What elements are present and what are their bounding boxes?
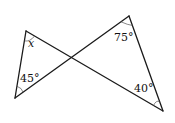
geometry-diagram: x 45° 75° 40° (0, 0, 175, 123)
angle-arc-B (17, 86, 23, 92)
segment-BC (15, 16, 129, 98)
angle-label-40: 40° (134, 82, 154, 95)
segment-CD (129, 16, 163, 111)
angle-label-75: 75° (114, 31, 134, 44)
angle-label-45: 45° (20, 72, 40, 85)
segment-AD (26, 31, 163, 111)
angle-arc-D (154, 101, 160, 105)
angle-label-x: x (28, 37, 35, 50)
